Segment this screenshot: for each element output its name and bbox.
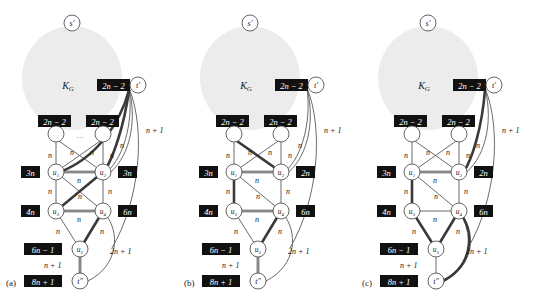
label-u4-weight: 6n [123, 207, 132, 217]
label-u5-weight: 6n − 1 [388, 245, 411, 255]
edge-weight: n [48, 151, 52, 160]
panel-b: 2n − 2 2n − 2 2n − 2 3n 2n 4n 6n 6n − 1 … [178, 0, 356, 296]
panel-c-caption: (c) [362, 278, 372, 288]
label-tprime-weight: 2n − 2 [102, 81, 125, 91]
panel-c-graph: 2n − 2 2n − 2 2n − 2 3n 2n 4n 6n 6n − 1 … [356, 0, 534, 296]
node-u2-label: u₂ [456, 168, 463, 177]
edge-weight-n-plus-1-bottom: n + 1 [44, 261, 61, 270]
node-u1-label: u₁ [53, 168, 60, 177]
edge-weight: n [255, 215, 259, 224]
node-u5-label: u₅ [255, 245, 262, 254]
node-v2[interactable] [95, 126, 111, 142]
edge-weight: n [255, 176, 259, 185]
node-t-star-label: t″ [255, 277, 261, 286]
node-v1[interactable] [48, 126, 64, 142]
node-s-prime-label: s′ [248, 19, 253, 28]
panel-b-graph: 2n − 2 2n − 2 2n − 2 3n 2n 4n 6n 6n − 1 … [178, 0, 356, 296]
node-s-prime-label: s′ [426, 19, 431, 28]
panel-c: 2n − 2 2n − 2 2n − 2 3n 2n 4n 6n 6n − 1 … [356, 0, 534, 296]
label-u2-weight: 2n [301, 168, 310, 178]
label-u4-weight: 6n [479, 207, 488, 217]
panel-a: 2n − 2 2n − 2 2n − 2 3n 3n 4n 6n 6n − 1 … [0, 0, 178, 296]
edge-weight: n [226, 151, 230, 160]
edge-weight: n [286, 187, 290, 196]
label-tprime-weight: 2n − 2 [280, 81, 303, 91]
panel-a-caption: (a) [6, 278, 16, 288]
label-v2-weight: 2n − 2 [269, 117, 292, 127]
edge-weight: n [268, 148, 272, 157]
node-u1-label: u₁ [231, 168, 238, 177]
label-u3-weight: 4n [26, 207, 35, 217]
edge-weight-2n-plus-1: 2n + 1 [288, 247, 309, 256]
label-v1-weight: 2n − 2 [399, 117, 422, 127]
ellipsis-dots: ··· [76, 133, 84, 142]
node-u1-label: u₁ [409, 168, 416, 177]
label-u3-weight: 4n [382, 207, 391, 217]
label-u2-weight: 2n [479, 168, 488, 178]
edge-weight-n-plus-1-top: n + 1 [146, 126, 163, 135]
edge-weight: n [248, 148, 252, 157]
panel-a-graph: 2n − 2 2n − 2 2n − 2 3n 3n 4n 6n 6n − 1 … [0, 0, 178, 296]
edge-weight: n [476, 141, 480, 150]
label-tprime-weight: 2n − 2 [458, 81, 481, 91]
graph-blob [200, 26, 300, 130]
edge-weight: n [70, 148, 74, 157]
edge-weight: n [456, 227, 460, 236]
label-u1-weight: 3n [25, 168, 35, 178]
edge-weight: n [234, 227, 238, 236]
label-u5-weight: 6n − 1 [32, 245, 55, 255]
label-v2-weight: 2n − 2 [447, 117, 470, 127]
label-u3-weight: 4n [204, 207, 213, 217]
label-tstar-weight: 8n + 1 [32, 277, 55, 287]
label-u1-weight: 3n [203, 168, 213, 178]
edge-weight: n [278, 227, 282, 236]
edge-weight: n [426, 148, 430, 157]
edge-weight: n [120, 141, 124, 150]
edge-weight: n [404, 187, 408, 196]
node-t-prime-label: t′ [492, 81, 496, 90]
edge-weight: n [433, 215, 437, 224]
node-t-star-label: t″ [77, 277, 83, 286]
edge-weight: n [100, 227, 104, 236]
node-u3-label: u₃ [409, 207, 416, 216]
edge-weight: n [226, 187, 230, 196]
node-u4-label: u₄ [100, 207, 107, 216]
node-u2-label: u₂ [278, 168, 285, 177]
edge-weight: n [298, 141, 302, 150]
edge-weight-n-plus-1-top: n + 1 [324, 126, 341, 135]
edge-weight: n [446, 148, 450, 157]
node-v2[interactable] [273, 126, 289, 142]
node-s-prime-label: s′ [70, 19, 75, 28]
node-t-prime-label: t′ [136, 81, 140, 90]
node-v1[interactable] [226, 126, 242, 142]
edge-weight: n [464, 187, 468, 196]
graph-blob [22, 26, 122, 130]
label-u4-weight: 6n [301, 207, 310, 217]
graph-blob [378, 26, 478, 130]
node-u3-label: u₃ [53, 207, 60, 216]
edge-weight-2n-plus-1: 2n + 1 [466, 247, 487, 256]
figure-container: 2n − 2 2n − 2 2n − 2 3n 3n 4n 6n 6n − 1 … [0, 0, 535, 296]
edge-weight: n [108, 187, 112, 196]
label-tstar-weight: 8n + 1 [210, 277, 233, 287]
edge-weight: n [78, 192, 82, 201]
label-v1-weight: 2n − 2 [221, 117, 244, 127]
edge-weight: n [48, 187, 52, 196]
node-t-prime-label: t′ [314, 81, 318, 90]
edge-weight: n [412, 227, 416, 236]
label-tstar-weight: 8n + 1 [388, 277, 411, 287]
edge-weight-n-plus-1-bottom: n + 1 [400, 261, 417, 270]
node-u4-label: u₄ [278, 207, 285, 216]
node-u3-label: u₃ [231, 207, 238, 216]
node-v2[interactable] [451, 126, 467, 142]
edge-weight: n [434, 192, 438, 201]
node-u5-label: u₅ [77, 245, 84, 254]
edge-weight: n [433, 176, 437, 185]
node-t-star-label: t″ [433, 277, 439, 286]
label-v2-weight: 2n − 2 [91, 117, 114, 127]
node-u4-label: u₄ [456, 207, 463, 216]
edge-weight: n [77, 176, 81, 185]
node-v1[interactable] [404, 126, 420, 142]
node-u2-label: u₂ [100, 168, 107, 177]
edge-weight-2n-plus-1: 2n + 1 [110, 247, 131, 256]
